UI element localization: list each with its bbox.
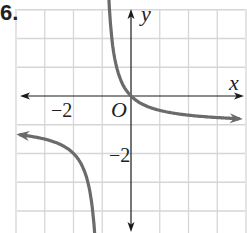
origin-label: O	[111, 99, 127, 121]
y-axis-label: y	[141, 3, 151, 25]
left-branch-curve	[20, 135, 95, 233]
x-axis-label: x	[229, 72, 239, 94]
x-tick-label-neg2: −2	[51, 100, 72, 120]
right-branch-curve	[108, 0, 239, 119]
problem-number: 6.	[0, 2, 18, 24]
y-tick-label-neg2: −2	[109, 145, 130, 165]
